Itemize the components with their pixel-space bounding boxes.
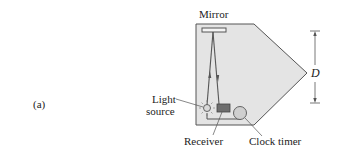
clock-timer-icon	[234, 107, 247, 120]
mirror-icon	[202, 28, 226, 32]
clock-timer-label: Clock timer	[249, 135, 301, 147]
mirror-label: Mirror	[199, 8, 228, 20]
distance-label: D	[311, 67, 320, 79]
receiver-icon	[217, 104, 230, 112]
dimension-arrow-bottom	[313, 98, 316, 103]
light-clock-diagram	[0, 0, 338, 156]
receiver-label: Receiver	[184, 135, 223, 147]
light-source-label-line2: source	[146, 105, 175, 117]
dimension-arrow-top	[313, 31, 316, 36]
panel-label: (a)	[33, 98, 45, 110]
light-source-label-line1: Light	[152, 93, 176, 105]
